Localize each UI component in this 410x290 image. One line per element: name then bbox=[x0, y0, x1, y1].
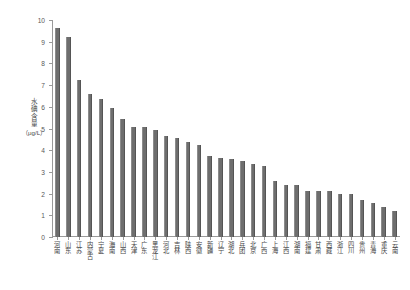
x-tick bbox=[221, 237, 222, 240]
y-tick: 4 bbox=[49, 150, 53, 151]
bar bbox=[110, 108, 115, 237]
bar bbox=[186, 142, 191, 237]
bar bbox=[153, 130, 158, 237]
y-axis-title-text: 水碘含量 bbox=[29, 98, 37, 128]
bar bbox=[218, 158, 223, 237]
x-tick bbox=[68, 237, 69, 240]
y-tick: 2 bbox=[49, 194, 53, 195]
bar bbox=[175, 138, 180, 237]
bar bbox=[229, 159, 234, 237]
x-tick bbox=[188, 237, 189, 240]
bar bbox=[381, 207, 386, 237]
x-tick-label: 宁夏 bbox=[97, 241, 104, 253]
y-tick-label: 1 bbox=[41, 212, 45, 219]
x-tick bbox=[264, 237, 265, 240]
x-tick bbox=[308, 237, 309, 240]
y-tick-label: 9 bbox=[41, 38, 45, 45]
y-tick: 9 bbox=[49, 42, 53, 43]
x-tick-label: 甘肃 bbox=[315, 241, 322, 253]
water-iodine-bar-chart: 水碘含量 （μg/L） 012345678910 河南山东江苏内蒙古宁夏海南山西… bbox=[0, 0, 410, 290]
x-tick-label: 北京 bbox=[250, 241, 257, 253]
x-tick-label: 江苏 bbox=[76, 241, 83, 253]
x-tick-label: 山东 bbox=[65, 241, 72, 253]
bar bbox=[88, 94, 93, 237]
x-tick bbox=[155, 237, 156, 240]
x-tick bbox=[134, 237, 135, 240]
y-tick-label: 4 bbox=[41, 147, 45, 154]
y-tick: 3 bbox=[49, 172, 53, 173]
x-tick-label: 河南 bbox=[54, 241, 61, 253]
y-tick: 10 bbox=[49, 20, 53, 21]
x-tick-label: 天津 bbox=[130, 241, 137, 253]
x-tick bbox=[253, 237, 254, 240]
y-tick-label: 8 bbox=[41, 60, 45, 67]
x-tick bbox=[123, 237, 124, 240]
x-tick-label: 广西 bbox=[261, 241, 268, 253]
x-tick bbox=[395, 237, 396, 240]
y-tick: 6 bbox=[49, 107, 53, 108]
bar bbox=[120, 119, 125, 237]
bar bbox=[99, 99, 104, 237]
bar bbox=[371, 203, 376, 237]
x-tick-label: 青海 bbox=[369, 241, 376, 253]
x-tick-label: 贵州 bbox=[358, 241, 365, 253]
y-tick-label: 7 bbox=[41, 82, 45, 89]
bar bbox=[349, 194, 354, 237]
bar bbox=[316, 191, 321, 237]
bar bbox=[207, 156, 212, 237]
y-tick-label: 6 bbox=[41, 103, 45, 110]
x-tick-label: 湖北 bbox=[228, 241, 235, 253]
x-tick bbox=[112, 237, 113, 240]
bar bbox=[77, 80, 82, 237]
bar bbox=[66, 37, 71, 237]
y-tick: 1 bbox=[49, 215, 53, 216]
x-tick-label: 云南 bbox=[391, 241, 398, 253]
x-tick bbox=[362, 237, 363, 240]
x-tick bbox=[318, 237, 319, 240]
bar bbox=[305, 191, 310, 237]
x-tick bbox=[373, 237, 374, 240]
bar bbox=[251, 164, 256, 237]
x-tick bbox=[340, 237, 341, 240]
x-tick-label: 兵团 bbox=[239, 241, 246, 253]
x-tick-label: 上海 bbox=[271, 241, 278, 253]
x-tick bbox=[242, 237, 243, 240]
x-tick bbox=[199, 237, 200, 240]
bar bbox=[164, 136, 169, 237]
y-tick-label: 5 bbox=[41, 125, 45, 132]
x-tick-label: 浙江 bbox=[337, 241, 344, 253]
bar bbox=[273, 181, 278, 237]
bar bbox=[197, 145, 202, 237]
x-tick-label: 西藏 bbox=[326, 241, 333, 253]
x-tick bbox=[90, 237, 91, 240]
x-tick bbox=[286, 237, 287, 240]
bar bbox=[360, 200, 365, 237]
x-tick-label: 四川 bbox=[348, 241, 355, 253]
x-tick-label: 辽宁 bbox=[217, 241, 224, 253]
x-tick-label: 内蒙古 bbox=[87, 241, 94, 260]
x-tick-label: 陕西 bbox=[184, 241, 191, 253]
plot-area: 012345678910 bbox=[52, 20, 400, 237]
y-tick-label: 0 bbox=[41, 234, 45, 241]
x-tick-label: 海南 bbox=[108, 241, 115, 253]
x-tick bbox=[231, 237, 232, 240]
x-tick bbox=[177, 237, 178, 240]
y-tick-label: 2 bbox=[41, 190, 45, 197]
bar bbox=[338, 194, 343, 237]
x-tick bbox=[351, 237, 352, 240]
y-tick: 8 bbox=[49, 63, 53, 64]
x-tick-label: 重庆 bbox=[380, 241, 387, 253]
x-tick-label: 广东 bbox=[141, 241, 148, 253]
y-tick: 7 bbox=[49, 85, 53, 86]
bar bbox=[142, 127, 147, 237]
x-tick-label: 安徽 bbox=[195, 241, 202, 253]
bar bbox=[55, 28, 60, 237]
x-tick bbox=[297, 237, 298, 240]
x-tick-label: 湖南 bbox=[293, 241, 300, 253]
x-tick-label: 吉林 bbox=[174, 241, 181, 253]
x-tick bbox=[57, 237, 58, 240]
y-tick: 0 bbox=[49, 237, 53, 238]
bar bbox=[392, 211, 397, 237]
bar bbox=[262, 166, 267, 237]
x-tick bbox=[101, 237, 102, 240]
